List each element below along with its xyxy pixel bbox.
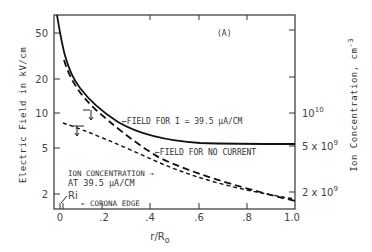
svg-text:.6: .6 (194, 212, 204, 223)
svg-text:50: 50 (35, 28, 48, 39)
annotation-ion-concentration-2: AT 39.5 µA/CM (68, 178, 135, 188)
annotation-field-with-current: ←FIELD FOR I = 39.5 µA/CM (122, 117, 243, 126)
svg-text:.8: .8 (242, 212, 252, 223)
left-y-tick-labels: 50 20 10 5 2 (35, 28, 48, 200)
svg-text:.4: .4 (145, 212, 155, 223)
svg-text:20: 20 (35, 74, 48, 85)
x-tick-labels: 0 .2 .4 .6 .8 1.0 (57, 212, 300, 223)
y-axis-label-right: Ion Concentration, cm-3 (347, 38, 359, 172)
svg-text:2: 2 (42, 189, 48, 200)
svg-text:5: 5 (42, 143, 48, 154)
panel-label: (A) (217, 29, 231, 38)
right-y-ticks (289, 30, 295, 192)
annotation-corona-edge: ← CORONA EDGE (81, 199, 140, 208)
svg-text:10: 10 (35, 108, 48, 119)
ri-marker (61, 196, 67, 203)
svg-text:0: 0 (57, 212, 63, 223)
svg-text:5 x 109: 5 x 109 (302, 139, 338, 152)
x-axis-label: r/Ro (150, 231, 169, 245)
svg-text:1.0: 1.0 (284, 212, 300, 223)
annotation-ri: Ri (68, 190, 78, 201)
svg-text:2 x 109: 2 x 109 (302, 185, 338, 198)
left-y-ticks (54, 33, 60, 194)
top-ticks (150, 15, 247, 20)
annotation-ion-concentration-1: ION CONCENTRATION → (68, 169, 154, 178)
marker-arrows (73, 110, 93, 136)
right-y-tick-labels: 1010 5 x 109 2 x 109 (302, 106, 338, 198)
annotation-field-no-current: ←FIELD FOR NO CURRENT (155, 148, 256, 157)
svg-text:1010: 1010 (302, 106, 324, 119)
chart: 50 20 10 5 2 1010 5 x 109 2 x 109 0 .2 .… (0, 0, 372, 252)
svg-text:.2: .2 (99, 212, 109, 223)
y-axis-label-left: Electric Field in kV/cm (18, 47, 28, 183)
